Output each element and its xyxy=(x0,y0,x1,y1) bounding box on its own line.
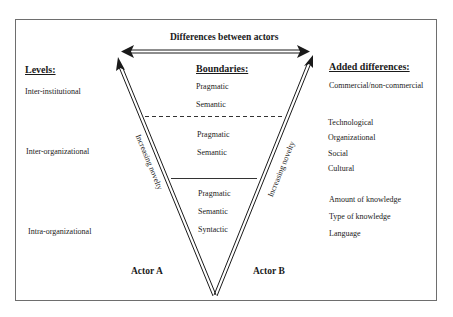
difference-item: Amount of knowledge xyxy=(329,195,401,205)
boundary-item: Pragmatic xyxy=(197,130,229,140)
diagram-title: Differences between actors xyxy=(170,32,279,42)
difference-item: Social xyxy=(328,149,348,159)
left-novelty-arrow xyxy=(116,57,216,296)
right-novelty-arrow xyxy=(214,55,313,296)
boundary-item: Pragmatic xyxy=(196,82,228,92)
boundary-item: Pragmatic xyxy=(198,189,230,199)
differences-arrow xyxy=(121,45,310,58)
boundary-item: Semantic xyxy=(197,148,227,158)
difference-item: Type of knowledge xyxy=(329,212,391,222)
difference-item: Technological xyxy=(328,118,373,128)
triangle-diagram xyxy=(0,0,453,317)
level-item: Inter-organizational xyxy=(26,147,89,157)
boundary-item: Semantic xyxy=(198,207,228,217)
difference-item: Commercial/non-commercial xyxy=(329,81,423,91)
levels-heading: Levels: xyxy=(25,65,56,75)
boundary-item: Syntactic xyxy=(198,225,228,235)
actor-b-label: Actor B xyxy=(253,266,285,276)
difference-item: Cultural xyxy=(328,164,354,174)
level-item: Intra-organizational xyxy=(28,227,91,237)
difference-item: Language xyxy=(329,229,361,239)
added-differences-heading: Added differences: xyxy=(329,62,410,72)
boundaries-heading: Boundaries: xyxy=(196,64,248,74)
difference-item: Organizational xyxy=(328,133,375,143)
boundary-item: Semantic xyxy=(196,100,226,110)
actor-a-label: Actor A xyxy=(131,266,163,276)
level-item: Inter-institutional xyxy=(25,87,81,97)
